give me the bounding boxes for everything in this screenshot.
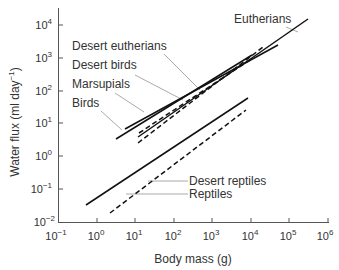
x-tick-label: 102	[165, 228, 182, 242]
x-tick-label: 104	[242, 228, 259, 242]
label-desert-reptiles: Desert reptiles	[189, 174, 266, 188]
x-axis-title: Body mass (g)	[154, 252, 231, 266]
y-tick-label: 10−1	[31, 181, 53, 195]
x-tick-label: 100	[88, 228, 105, 242]
x-tick-label: 103	[203, 228, 220, 242]
y-tick-label: 102	[35, 83, 52, 97]
x-tick-label: 105	[280, 228, 297, 242]
label-marsupials: Marsupials	[72, 77, 130, 91]
y-tick-label: 104	[35, 17, 52, 31]
y-tick-label: 103	[35, 50, 52, 64]
x-tick-label: 106	[317, 228, 334, 242]
label-birds: Birds	[72, 96, 99, 110]
x-tick-labels: 10−1 100 101 102 103 104 105 106	[45, 228, 334, 242]
label-eutherians: Eutherians	[234, 12, 291, 26]
y-tick-label: 101	[35, 115, 52, 129]
label-desert-birds: Desert birds	[72, 58, 137, 72]
series-desert-birds	[139, 60, 250, 133]
label-desert-eutherians: Desert eutherians	[72, 39, 167, 53]
x-tick-label: 101	[126, 228, 143, 242]
y-tick-label: 10−2	[34, 214, 56, 228]
label-reptiles: Reptiles	[189, 187, 232, 201]
y-axis-title: Water flux (ml day−1)	[7, 67, 22, 176]
x-tick-label: 10−1	[45, 228, 67, 242]
y-tick-labels: 104 103 102 101 100 10−1 10−2	[31, 17, 56, 228]
water-flux-chart: 104 103 102 101 100 10−1 10−2 10−1 100 1…	[0, 0, 339, 270]
y-tick-label: 100	[35, 148, 52, 162]
